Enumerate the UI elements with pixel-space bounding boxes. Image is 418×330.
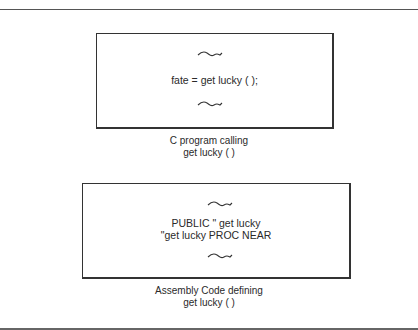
assembly-code-caption: Assembly Code defining get lucky ( ) [0, 285, 418, 309]
squiggle-icon [197, 100, 223, 108]
asm-code-line: "get lucky PROC NEAR [83, 229, 349, 241]
caption-line: get lucky ( ) [0, 297, 418, 309]
c-program-box: fate = get lucky ( ); [96, 33, 334, 129]
squiggle-icon [207, 252, 233, 260]
top-rule [0, 9, 418, 10]
squiggle-icon [197, 50, 223, 58]
asm-code-line: PUBLIC " get lucky [83, 217, 349, 229]
c-code-line: fate = get lucky ( ); [97, 74, 332, 86]
c-program-caption: C program calling get lucky ( ) [0, 135, 418, 159]
squiggle-icon [207, 200, 233, 208]
caption-line: get lucky ( ) [0, 147, 418, 159]
caption-line: C program calling [0, 135, 418, 147]
assembly-code-box: PUBLIC " get lucky "get lucky PROC NEAR [82, 183, 351, 279]
caption-line: Assembly Code defining [0, 285, 418, 297]
